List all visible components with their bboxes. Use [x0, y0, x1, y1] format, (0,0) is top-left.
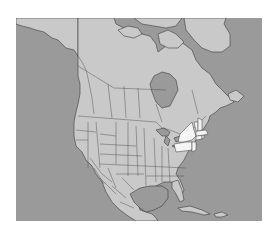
- florida: [172, 180, 184, 202]
- state-rhode-island[interactable]: [202, 135, 204, 139]
- alaska: [16, 18, 78, 56]
- hispaniola: [214, 212, 228, 217]
- north-america-map: [16, 18, 262, 221]
- state-new-hampshire[interactable]: [198, 118, 202, 131]
- map-frame: [16, 18, 262, 221]
- baffin-island: [158, 30, 184, 48]
- greenland: [184, 18, 230, 52]
- state-pennsylvania[interactable]: [174, 142, 192, 152]
- state-new-jersey[interactable]: [192, 142, 196, 152]
- cuba: [178, 206, 210, 215]
- ellesmere-island: [134, 18, 182, 28]
- newfoundland: [228, 90, 244, 102]
